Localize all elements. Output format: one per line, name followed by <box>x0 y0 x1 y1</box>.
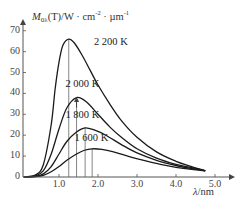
x-tick-label: 3.0 <box>127 178 147 189</box>
blackbody-radiation-chart <box>0 0 241 208</box>
y-tick-label: 10 <box>6 149 20 160</box>
y-axis-label: M0λ(T)/W · cm-2 · µm-1 <box>32 9 129 24</box>
x-tick-label: 5.0 <box>205 178 225 189</box>
curve-label: 2 000 K <box>65 78 99 89</box>
curve-label: 1 600 K <box>74 132 108 143</box>
y-tick-label: 60 <box>6 45 20 56</box>
y-tick-label: 0 <box>6 170 20 181</box>
x-tick-label: 2.0 <box>88 178 108 189</box>
y-tick-label: 40 <box>6 86 20 97</box>
axis-ticks <box>23 31 215 177</box>
curve-label: 2 200 K <box>94 36 128 47</box>
curve-2200K <box>24 39 205 177</box>
y-tick-label: 20 <box>6 128 20 139</box>
curve-label: 1 800 K <box>65 109 99 120</box>
y-tick-label: 70 <box>6 24 20 35</box>
y-tick-label: 50 <box>6 66 20 77</box>
radiation-curves <box>24 39 205 177</box>
x-tick-label: 4.0 <box>166 178 186 189</box>
y-tick-label: 30 <box>6 107 20 118</box>
x-tick-label: 1.0 <box>49 178 69 189</box>
curve-2000K <box>24 97 205 177</box>
